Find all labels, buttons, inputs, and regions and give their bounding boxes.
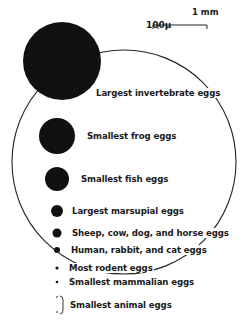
label-smallest-fish-eggs: Smallest fish eggs [80,174,169,184]
egg-largest-marsupial [51,205,63,217]
label-smallest-frog-eggs: Smallest frog eggs [86,131,177,141]
label-smallest-animal-eggs: Smallest animal eggs [69,300,173,310]
egg-smallest-fish [45,167,69,191]
label-smallest-mammalian-eggs: Smallest mammalian eggs [68,277,195,287]
scale-label-1mm: 1 mm [192,7,219,17]
egg-sheep-cow-dog-horse [53,229,62,238]
egg-smallest-mammalian [56,281,59,284]
egg-largest-invertebrate [23,22,101,100]
scale-label-100-micron: 100μ [146,20,171,30]
label-sheep-cow-dog-horse-eggs: Sheep, cow, dog, and horse eggs [71,228,230,238]
label-most-rodent-eggs: Most rodent eggs [68,263,154,273]
egg-human-rabbit-cat [54,247,60,253]
label-largest-invertebrate-eggs: Largest invertebrate eggs [95,88,221,98]
egg-most-rodent [55,266,58,269]
egg-smallest-animal-dot-bottom [56,311,58,313]
label-human-rabbit-cat-eggs: Human, rabbit, and cat eggs [70,245,208,255]
smallest-animal-bracket [60,296,63,314]
label-largest-marsupial-eggs: Largest marsupial eggs [71,206,185,216]
egg-smallest-frog [39,118,75,154]
egg-smallest-animal-dot-top [56,296,58,298]
